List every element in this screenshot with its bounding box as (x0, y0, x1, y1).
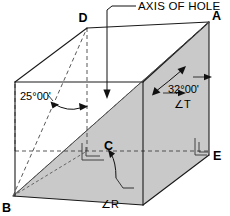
vertex-label-D: D (78, 11, 87, 25)
title-axis-of-hole: AXIS OF HOLE (138, 0, 220, 12)
technical-drawing: AXIS OF HOLE D A B C E 25°00' 32°00' ∠T … (0, 0, 230, 216)
vertex-label-B: B (2, 201, 11, 215)
axis-of-hole-leader (103, 6, 136, 99)
vertex-label-E: E (213, 149, 221, 163)
vertex-label-A: A (212, 9, 221, 23)
angle-25-leader (48, 95, 88, 111)
angle-symbol-R: ∠R (101, 198, 119, 210)
angle-symbol-T: ∠T (174, 98, 191, 110)
dimension-angle-25: 25°00' (20, 90, 51, 102)
axis-of-hole-figure: AXIS OF HOLE D A B C E 25°00' 32°00' ∠T … (0, 0, 230, 216)
vertex-label-C: C (104, 139, 113, 153)
dimension-angle-32: 32°00' (168, 83, 199, 95)
